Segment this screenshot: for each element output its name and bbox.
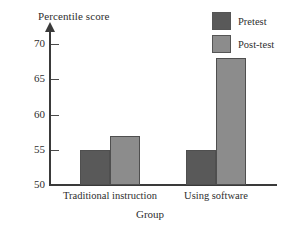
y-tick-mark-65 xyxy=(51,79,59,80)
legend-item-post-test: Post-test xyxy=(212,35,274,53)
legend-label-post-test: Post-test xyxy=(238,39,274,50)
x-category-label-using-software: Using software xyxy=(146,190,286,201)
y-tick-70: 70 xyxy=(0,38,45,39)
y-tick-mark-70 xyxy=(51,44,59,45)
bar-post-test-traditional-instruction xyxy=(110,136,140,185)
y-tick-mark-55 xyxy=(51,150,59,151)
y-tick-label: 70 xyxy=(19,38,45,49)
y-tick-label: 55 xyxy=(19,144,45,155)
y-tick-mark-60 xyxy=(51,115,59,116)
legend-item-pretest: Pretest xyxy=(212,12,274,30)
y-tick-50: 50 xyxy=(0,179,45,180)
bar-pretest-using-software xyxy=(186,150,216,185)
y-tick-65: 65 xyxy=(0,73,45,74)
legend-swatch-pretest xyxy=(212,12,231,30)
bar-post-test-using-software xyxy=(216,58,246,185)
y-tick-label: 60 xyxy=(19,109,45,120)
chart-figure: Percentile score 70 65 60 55 50 Tr xyxy=(0,0,300,237)
legend-swatch-post-test xyxy=(212,35,231,53)
y-tick-60: 60 xyxy=(0,109,45,110)
y-tick-label: 50 xyxy=(19,179,45,190)
x-axis-title: Group xyxy=(0,208,300,220)
y-axis-line xyxy=(49,30,51,186)
legend: Pretest Post-test xyxy=(212,12,274,58)
legend-label-pretest: Pretest xyxy=(238,16,267,27)
y-tick-55: 55 xyxy=(0,144,45,145)
bar-pretest-traditional-instruction xyxy=(80,150,110,185)
y-axis-arrow-icon xyxy=(45,22,55,32)
y-tick-label: 65 xyxy=(19,73,45,84)
